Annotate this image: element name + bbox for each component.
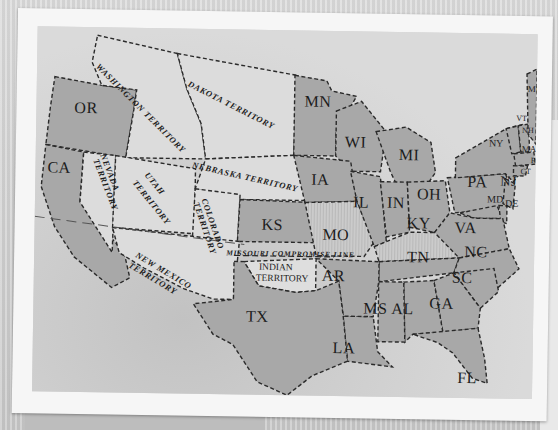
label-ma: MA bbox=[522, 144, 537, 154]
label-ms: MS bbox=[363, 299, 387, 317]
label-mi: MI bbox=[399, 146, 420, 164]
label-nh: NH bbox=[522, 126, 534, 135]
label-ks: KS bbox=[261, 216, 283, 234]
label-nc: NC bbox=[464, 243, 488, 261]
label-sc: SC bbox=[452, 269, 473, 287]
label-il: IL bbox=[353, 193, 369, 211]
label-ky: KY bbox=[407, 214, 431, 232]
label-md: MD bbox=[487, 193, 503, 204]
label-ca: CA bbox=[47, 158, 71, 176]
label-ct: CT bbox=[520, 167, 530, 176]
label-de: DE bbox=[505, 198, 519, 209]
label-al: AL bbox=[391, 300, 414, 318]
us-map: OR CA MN WI MI IA IL IN OH PA NY VT NH M… bbox=[32, 26, 538, 399]
label-oh: OH bbox=[417, 185, 441, 203]
label-fl: FL bbox=[457, 369, 477, 387]
label-indian-1: INDIAN bbox=[259, 262, 293, 273]
label-ri: RI bbox=[531, 156, 538, 165]
label-in: IN bbox=[387, 194, 405, 212]
label-tx: TX bbox=[246, 308, 269, 326]
map-photo-print: OR CA MN WI MI IA IL IN OH PA NY VT NH M… bbox=[12, 8, 553, 421]
label-mo: MO bbox=[322, 226, 349, 244]
label-mn: MN bbox=[304, 93, 331, 111]
label-vt: VT bbox=[516, 114, 527, 123]
label-nj: NJ bbox=[500, 174, 517, 190]
label-or: OR bbox=[74, 99, 98, 117]
label-indian-2: TERRITORY bbox=[256, 273, 309, 284]
label-ga: GA bbox=[429, 294, 453, 312]
label-me: ME bbox=[528, 84, 538, 94]
label-ia: IA bbox=[311, 171, 329, 189]
label-la: LA bbox=[333, 339, 356, 357]
label-ny: NY bbox=[489, 137, 504, 148]
label-pa: PA bbox=[467, 173, 487, 191]
region-utah bbox=[112, 156, 195, 234]
label-tn: TN bbox=[407, 248, 430, 266]
label-ar: AR bbox=[322, 267, 346, 285]
label-va: VA bbox=[454, 219, 476, 237]
label-wi: WI bbox=[345, 133, 367, 151]
